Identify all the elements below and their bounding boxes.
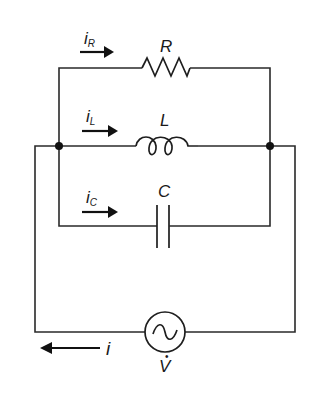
source-label-dot: • xyxy=(165,352,169,362)
resistor-branch xyxy=(59,58,270,146)
capacitor-label: C xyxy=(158,183,170,200)
current-label-iL: iL xyxy=(86,108,95,127)
node-right xyxy=(266,142,274,150)
current-label-iC: iC xyxy=(86,189,97,208)
circuit-diagram: R L C V • iR iL iC i xyxy=(0,0,318,395)
source-loop xyxy=(35,146,295,352)
current-label-iR: iR xyxy=(84,30,95,49)
inductor-symbol xyxy=(136,137,198,155)
arrow-i-icon xyxy=(40,342,100,354)
resistor-label: R xyxy=(160,38,172,55)
sine-wave-icon xyxy=(153,325,177,340)
current-label-i: i xyxy=(106,339,110,358)
node-left xyxy=(55,142,63,150)
inductor-label: L xyxy=(160,112,169,129)
resistor-symbol xyxy=(142,58,190,76)
inductor-branch xyxy=(59,137,270,155)
